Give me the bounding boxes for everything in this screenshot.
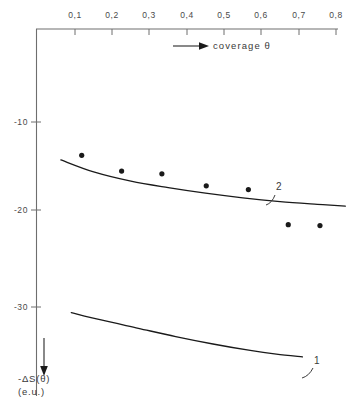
figure-container: 0,1 0,2 0,3 0,4 0,5 0,6 0,7 0,8 -10 -20 … [0,0,351,406]
x-tick-label-0.1: 0,1 [68,10,82,20]
curve-1-path [71,313,302,357]
curve-label-1: 1 [314,355,320,366]
scatter-point [79,153,84,158]
x-tick-label-0.7: 0,7 [292,10,306,20]
x-axis-label: coverage θ [213,40,271,51]
x-tick-label-0.4: 0,4 [180,10,194,20]
scatter-point [317,223,322,228]
scatter-point-group [79,153,322,229]
x-tick-label-0.6: 0,6 [254,10,268,20]
scatter-point [286,222,291,227]
scatter-point [204,183,209,188]
x-tick-label-0.2: 0,2 [105,10,119,20]
x-axis-ticks [75,29,336,35]
x-tick-label-0.5: 0,5 [217,10,231,20]
curve-label-2: 2 [276,181,282,192]
y-axis-label-line1: -ΔS(θ) [18,372,50,385]
y-tick-label--30: -30 [0,302,28,312]
x-tick-label-0.3: 0,3 [142,10,156,20]
y-axis-label: -ΔS(θ) (e.u.) [18,372,50,398]
scatter-point [159,171,164,176]
scatter-point [246,187,251,192]
x-tick-label-0.8: 0,8 [329,10,343,20]
curve-2-path [61,160,345,206]
curve-1-leader-line [302,368,313,378]
y-axis-label-line2: (e.u.) [18,385,50,398]
y-tick-label--20: -20 [0,205,28,215]
scatter-point [119,168,124,173]
y-tick-label--10: -10 [0,117,28,127]
y-axis-arrow-icon [40,338,48,376]
x-axis-arrow-icon [173,42,209,50]
plot-canvas [0,0,351,406]
